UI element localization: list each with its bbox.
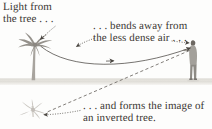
caption-light-from-tree: Light from the tree . . . [3, 1, 54, 26]
leader-arrow-bends-away [77, 39, 95, 47]
caption-forms-inverted-image: . . . and forms the image of an inverted… [83, 100, 204, 125]
caption-bends-away: . . . bends away from the less dense air… [93, 20, 187, 45]
inverted-tree-image [19, 99, 45, 119]
observer-figure [183, 40, 199, 82]
palm-tree-icon [18, 32, 52, 80]
mirage-diagram: Light from the tree . . . . . . bends aw… [0, 0, 212, 129]
curved-light-ray [41, 47, 190, 65]
